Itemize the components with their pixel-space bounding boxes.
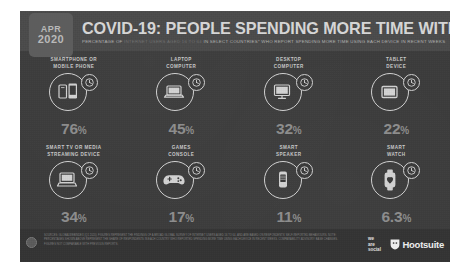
subtitle-segment-2: INTERNET USERS AGED 16 TO 64 (124, 39, 203, 44)
device-card-desktop: DESKTOP COMPUTER (235, 53, 343, 141)
device-label: TABLET DEVICE (343, 57, 451, 70)
device-value: 11% (235, 208, 343, 226)
device-card-games-console: GAMES CONSOLE (128, 141, 236, 229)
device-value: 6.3% (343, 208, 451, 226)
device-label: SMART SPEAKER (235, 145, 343, 158)
clock-badge-icon (81, 74, 98, 91)
clock-badge-icon (296, 162, 313, 179)
device-value-number: 17 (168, 208, 185, 225)
device-label-line1: SMART TV OR MEDIA (20, 145, 128, 152)
device-label-line2: COMPUTER (235, 64, 343, 71)
device-value-number: 22 (383, 120, 400, 137)
device-value: 76% (20, 120, 128, 138)
device-value-number: 11 (276, 208, 292, 225)
device-value: 32% (235, 120, 343, 138)
device-value-symbol: % (185, 125, 194, 136)
device-label-line1: DESKTOP (235, 57, 343, 64)
device-label-line2: STREAMING DEVICE (20, 152, 128, 159)
clock-badge-icon (403, 162, 420, 179)
device-row-2: SMART TV OR MEDIA STREAMING DEVICE (20, 141, 450, 229)
page-subtitle: PERCENTAGE OF INTERNET USERS AGED 16 TO … (82, 39, 445, 44)
device-label: LAPTOP COMPUTER (128, 57, 236, 70)
device-label-line2: COMPUTER (128, 64, 236, 71)
device-value: 45% (128, 120, 236, 138)
page-title: COVID-19: PEOPLE SPENDING MORE TIME WITH… (82, 19, 450, 38)
device-value-number: 45 (168, 120, 185, 137)
date-badge: APR 2020 (29, 13, 73, 57)
device-label-line1: LAPTOP (128, 57, 236, 64)
device-label-line2: DEVICE (343, 64, 451, 71)
device-label: SMARTPHONE OR MOBILE PHONE (20, 57, 128, 70)
clock-badge-icon (188, 74, 205, 91)
device-value-number: 34 (61, 208, 78, 225)
footnote-text: SOURCES: GLOBALWEBINDEX (Q1 2020). FIGUR… (44, 234, 344, 247)
subtitle-segment-3: IN SELECT COUNTRIES* WHO REPORT SPENDING… (203, 39, 445, 44)
infographic-slide: COVID-19: PEOPLE SPENDING MORE TIME WITH… (20, 11, 450, 262)
device-label-line1: SMARTPHONE OR (20, 57, 128, 64)
hootsuite-logo: Hootsuite (390, 239, 444, 250)
device-value-symbol: % (292, 213, 301, 224)
device-card-laptop: LAPTOP COMPUTER (128, 53, 236, 141)
device-label-line1: TABLET (343, 57, 451, 64)
device-icon-wrap (261, 73, 317, 113)
device-card-smart-speaker: SMART SPEAKER (235, 141, 343, 229)
device-value: 17% (128, 208, 236, 226)
device-icon-wrap (261, 161, 317, 201)
device-value-symbol: % (78, 125, 87, 136)
device-row-1: SMARTPHONE OR MOBILE PHONE (20, 53, 450, 141)
device-card-smart-watch: SMART WATCH (343, 141, 451, 229)
hootsuite-shield-icon (390, 239, 400, 250)
slide-header: COVID-19: PEOPLE SPENDING MORE TIME WITH… (20, 11, 450, 51)
device-icon-wrap (46, 161, 102, 201)
clock-badge-icon (296, 74, 313, 91)
device-value: 22% (343, 120, 451, 138)
device-grid: SMARTPHONE OR MOBILE PHONE (20, 53, 450, 229)
footer-badge-icon (26, 237, 37, 248)
device-label-line1: SMART (235, 145, 343, 152)
device-label-line2: CONSOLE (128, 152, 236, 159)
device-icon-wrap (153, 161, 209, 201)
device-icon-wrap (368, 161, 424, 201)
device-value-number: 32 (276, 120, 293, 137)
device-card-smart-tv: SMART TV OR MEDIA STREAMING DEVICE (20, 141, 128, 229)
device-icon-wrap (368, 73, 424, 113)
device-value: 34% (20, 208, 128, 226)
device-label-line2: MOBILE PHONE (20, 64, 128, 71)
footer-logos: we are social Hootsuite (368, 236, 444, 253)
device-card-tablet: TABLET DEVICE (343, 53, 451, 141)
device-value-symbol: % (78, 213, 87, 224)
device-icon-wrap (153, 73, 209, 113)
device-label-line1: GAMES (128, 145, 236, 152)
hootsuite-wordmark: Hootsuite (402, 239, 444, 250)
device-label: SMART TV OR MEDIA STREAMING DEVICE (20, 145, 128, 158)
we-are-social-logo: we are social (368, 236, 381, 253)
device-value-symbol: % (185, 213, 194, 224)
device-value-number: 76 (61, 120, 78, 137)
clock-badge-icon (403, 74, 420, 91)
device-label: GAMES CONSOLE (128, 145, 236, 158)
device-icon-wrap (46, 73, 102, 113)
device-label-line1: SMART (343, 145, 451, 152)
device-label: SMART WATCH (343, 145, 451, 158)
device-value-number: 6.3 (381, 208, 402, 225)
device-label-line2: WATCH (343, 152, 451, 159)
clock-badge-icon (188, 162, 205, 179)
device-value-symbol: % (400, 125, 409, 136)
date-badge-year: 2020 (38, 34, 64, 45)
clock-badge-icon (81, 162, 98, 179)
device-card-smartphone: SMARTPHONE OR MOBILE PHONE (20, 53, 128, 141)
device-value-symbol: % (293, 125, 302, 136)
subtitle-segment-1: PERCENTAGE OF (82, 39, 124, 44)
device-label-line2: SPEAKER (235, 152, 343, 159)
device-label: DESKTOP COMPUTER (235, 57, 343, 70)
slide-footer: SOURCES: GLOBALWEBINDEX (Q1 2020). FIGUR… (20, 229, 450, 262)
device-value-symbol: % (402, 213, 411, 224)
we-are-social-line3: social (368, 247, 381, 253)
